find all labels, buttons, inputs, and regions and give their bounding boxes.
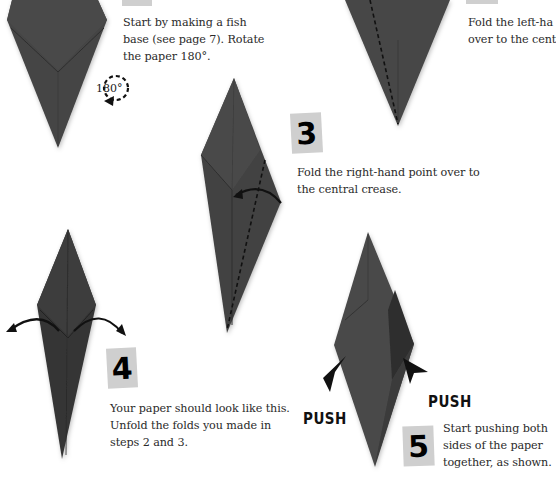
push-label-left: PUSH (303, 410, 347, 428)
step-5-number: 5 (407, 428, 429, 464)
step-5-text: Start pushing both sides of the paper to… (443, 420, 552, 471)
push-label-right: PUSH (428, 393, 472, 411)
step-5-line: Start pushing both (443, 420, 552, 437)
step-5-badge: 5 (402, 425, 434, 466)
step-5-line: sides of the paper (443, 437, 552, 454)
step-5-line: together, as shown. (443, 454, 552, 471)
